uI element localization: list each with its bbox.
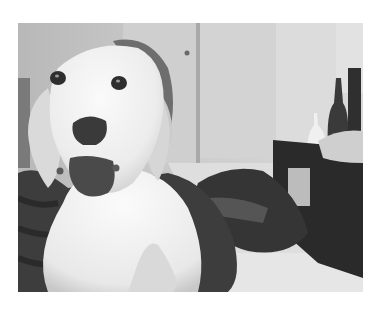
dog-left-eye (50, 71, 66, 85)
dog-photo (18, 23, 363, 292)
photo-canvas (18, 23, 363, 292)
dog-collar-tag-left (57, 168, 64, 175)
dog-collar-tag-right (113, 165, 120, 172)
dog-right-eye (111, 76, 127, 90)
dog-nose (72, 116, 106, 145)
door-handle (185, 51, 190, 56)
shelf (18, 78, 30, 168)
